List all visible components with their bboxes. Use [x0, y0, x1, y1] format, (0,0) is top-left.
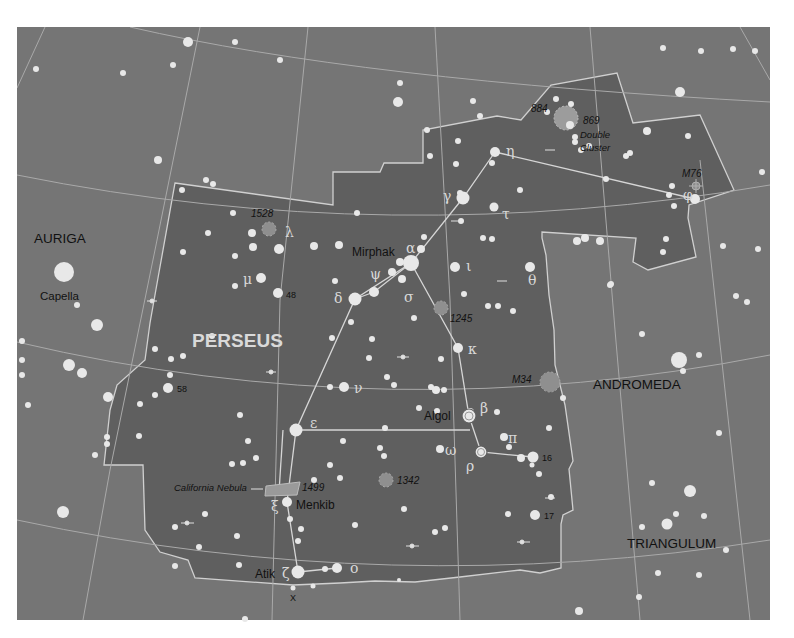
- greek-mu: μ: [243, 271, 252, 287]
- dso-label-double: Double: [580, 129, 610, 140]
- greek-sigma: σ: [404, 289, 414, 305]
- greek-kappa: κ: [468, 341, 477, 357]
- dso-label-884: 884: [531, 103, 548, 114]
- greek-epsilon: ε: [310, 415, 317, 431]
- greek-phi: φ: [683, 187, 693, 203]
- greek-nu: ν: [354, 380, 363, 396]
- double-cluster-icon: [554, 106, 578, 130]
- greek-xi: ξ: [271, 498, 279, 514]
- greek-omicron: ο: [350, 560, 358, 576]
- dso-label-m34: M34: [512, 374, 532, 385]
- star-label-atik: Atik: [255, 567, 276, 581]
- dso-label-1528: 1528: [251, 208, 274, 219]
- cluster-1342-icon: [379, 473, 393, 487]
- neighbor-label-triangulum: TRIANGULUM: [627, 536, 716, 551]
- greek-iota: ι: [466, 258, 472, 274]
- star-label-menkib: Menkib: [296, 498, 335, 512]
- dso-label-1245: 1245: [450, 313, 473, 324]
- neighbor-label-andromeda: ANDROMEDA: [593, 377, 681, 392]
- dso-label-m76: M76: [682, 168, 702, 179]
- cluster-m34-icon: [540, 372, 560, 392]
- greek-alpha: α: [406, 240, 416, 256]
- star-label-algol: Algol: [424, 409, 451, 423]
- greek-eta: η: [506, 143, 514, 159]
- star-number-58: 58: [177, 384, 187, 394]
- greek-rho: ρ: [466, 458, 474, 474]
- greek-lambda: λ: [285, 224, 294, 240]
- greek-omega: ω: [445, 442, 456, 458]
- star-chart: PERSEUS AURIGA ANDROMEDA TRIANGULUM Cape…: [0, 0, 794, 638]
- star-number-16: 16: [542, 453, 552, 463]
- greek-pi: π: [508, 430, 517, 446]
- greek-gamma: γ: [443, 188, 451, 204]
- constellation-title: PERSEUS: [192, 330, 283, 351]
- cluster-1245-icon: [434, 301, 448, 315]
- dso-label-869: 869: [583, 115, 600, 126]
- star-number-17: 17: [544, 511, 554, 521]
- greek-beta: β: [480, 400, 488, 416]
- dso-label-1499: 1499: [302, 482, 325, 493]
- greek-psi: ψ: [370, 266, 381, 282]
- dso-label-1342: 1342: [397, 475, 420, 486]
- cluster-1528-icon: [262, 222, 276, 236]
- neighbor-label-auriga: AURIGA: [34, 231, 86, 246]
- star-label-x: X: [290, 593, 296, 603]
- dso-label-california-nebula: California Nebula: [174, 482, 247, 493]
- dso-label-cluster: Cluster: [580, 142, 611, 153]
- star-label-capella: Capella: [40, 290, 80, 302]
- star-label-mirphak: Mirphak: [352, 245, 396, 259]
- star-number-48: 48: [286, 290, 296, 300]
- greek-delta: δ: [334, 290, 342, 306]
- greek-theta: θ: [528, 272, 536, 288]
- greek-tau: τ: [502, 206, 510, 222]
- greek-zeta: ζ: [282, 565, 290, 581]
